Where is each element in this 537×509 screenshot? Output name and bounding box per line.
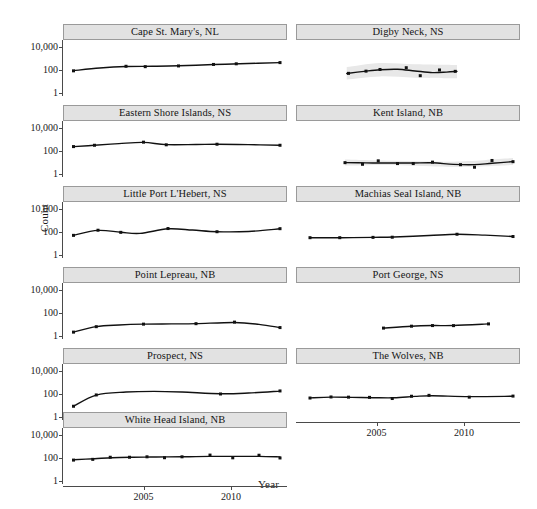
data-point bbox=[279, 389, 282, 392]
panel-strip-prospect-ns: Prospect, NS bbox=[63, 348, 287, 364]
panel-title-machias-seal-island-nb: Machias Seal Island, NB bbox=[355, 189, 462, 200]
data-point bbox=[368, 396, 371, 399]
data-point bbox=[456, 233, 459, 236]
data-point bbox=[377, 159, 380, 162]
data-point bbox=[309, 397, 312, 400]
trend-line-white-head-island-nb bbox=[74, 456, 281, 459]
x-axis-line bbox=[296, 422, 520, 423]
data-point bbox=[410, 325, 413, 328]
data-point bbox=[344, 161, 347, 164]
data-point bbox=[195, 322, 198, 325]
y-tick-label: 10,000 bbox=[31, 123, 59, 133]
panel-title-digby-neck-ns: Digby Neck, NS bbox=[372, 27, 443, 38]
data-point bbox=[279, 326, 282, 329]
y-tick-mark bbox=[59, 313, 63, 314]
plot-area-kent-island-nb bbox=[296, 121, 520, 177]
x-tick-label: 2005 bbox=[367, 428, 387, 438]
data-point bbox=[72, 234, 75, 237]
x-axis-line bbox=[63, 486, 287, 487]
data-point bbox=[258, 454, 261, 457]
y-tick-mark bbox=[59, 47, 63, 48]
data-point bbox=[512, 395, 515, 398]
y-tick-mark bbox=[59, 394, 63, 395]
y-axis-line bbox=[62, 121, 63, 177]
data-point bbox=[167, 227, 170, 230]
data-point bbox=[216, 230, 219, 233]
data-point bbox=[468, 396, 471, 399]
y-tick-label: 1 bbox=[53, 412, 58, 422]
y-axis-title: Count bbox=[38, 178, 54, 258]
data-point bbox=[165, 143, 168, 146]
plot-area-port-george-ns bbox=[296, 283, 520, 339]
plot-area-machias-seal-island-nb bbox=[296, 202, 520, 258]
data-point bbox=[338, 236, 341, 239]
panel-title-eastern-shore-islands-ns: Eastern Shore Islands, NS bbox=[119, 108, 231, 119]
x-tick-mark bbox=[231, 486, 232, 490]
data-point bbox=[487, 322, 490, 325]
panel-strip-cape-st-marys-nl: Cape St. Mary's, NL bbox=[63, 24, 287, 40]
y-tick-label: 100 bbox=[43, 308, 58, 318]
y-axis-line bbox=[62, 40, 63, 96]
y-tick-mark bbox=[59, 93, 63, 94]
data-point bbox=[177, 64, 180, 67]
y-tick-mark bbox=[59, 174, 63, 175]
y-tick-label: 100 bbox=[43, 146, 58, 156]
panel-title-port-george-ns: Port George, NS bbox=[372, 270, 443, 281]
panel-kent-island-nb: Kent Island, NB bbox=[296, 105, 520, 177]
data-point bbox=[512, 160, 515, 163]
data-point bbox=[72, 459, 75, 462]
data-point bbox=[146, 455, 149, 458]
data-point bbox=[372, 236, 375, 239]
data-point bbox=[412, 162, 415, 165]
data-point bbox=[438, 68, 441, 71]
data-point bbox=[428, 394, 431, 397]
data-point bbox=[72, 145, 75, 148]
panel-white-head-island-nb: White Head Island, NB110010,000 bbox=[63, 412, 287, 484]
panel-little-port-lhebert-ns: Little Port L'Hebert, NS110010,000 bbox=[63, 186, 287, 258]
y-tick-label: 1 bbox=[53, 476, 58, 486]
trend-line-cape-st-marys-nl bbox=[74, 63, 281, 71]
panel-strip-digby-neck-ns: Digby Neck, NS bbox=[296, 24, 520, 40]
panel-title-kent-island-nb: Kent Island, NB bbox=[373, 108, 443, 119]
data-point bbox=[279, 227, 282, 230]
data-point bbox=[491, 159, 494, 162]
y-tick-label: 10,000 bbox=[31, 42, 59, 52]
y-tick-mark bbox=[59, 70, 63, 71]
y-tick-mark bbox=[59, 151, 63, 152]
data-point bbox=[72, 331, 75, 334]
data-point bbox=[216, 143, 219, 146]
data-point bbox=[279, 61, 282, 64]
panel-point-lepreau-nb: Point Lepreau, NB110010,000 bbox=[63, 267, 287, 339]
y-tick-label: 10,000 bbox=[31, 430, 59, 440]
data-point bbox=[93, 144, 96, 147]
data-point bbox=[163, 456, 166, 459]
data-point bbox=[212, 63, 215, 66]
panel-title-the-wolves-nb: The Wolves, NB bbox=[372, 351, 443, 362]
panel-title-prospect-ns: Prospect, NS bbox=[147, 351, 203, 362]
data-point bbox=[405, 66, 408, 69]
plot-area-little-port-lhebert-ns: 110010,000 bbox=[63, 202, 287, 258]
data-point bbox=[330, 395, 333, 398]
plot-area-the-wolves-nb bbox=[296, 364, 520, 420]
y-tick-label: 100 bbox=[43, 65, 58, 75]
data-point bbox=[410, 395, 413, 398]
data-point bbox=[72, 405, 75, 408]
y-tick-label: 10,000 bbox=[31, 366, 59, 376]
y-tick-label: 1 bbox=[53, 88, 58, 98]
y-tick-mark bbox=[59, 371, 63, 372]
data-point bbox=[231, 456, 234, 459]
data-point bbox=[91, 458, 94, 461]
data-point bbox=[419, 74, 422, 77]
panel-title-white-head-island-nb: White Head Island, NB bbox=[125, 415, 226, 426]
y-axis-line bbox=[62, 202, 63, 258]
data-point bbox=[144, 65, 147, 68]
y-tick-mark bbox=[59, 232, 63, 233]
panel-eastern-shore-islands-ns: Eastern Shore Islands, NS110010,000 bbox=[63, 105, 287, 177]
x-tick-label: 2005 bbox=[134, 492, 154, 502]
plot-area-eastern-shore-islands-ns: 110010,000 bbox=[63, 121, 287, 177]
panel-strip-port-george-ns: Port George, NS bbox=[296, 267, 520, 283]
trend-line-eastern-shore-islands-ns bbox=[74, 142, 281, 146]
y-tick-mark bbox=[59, 435, 63, 436]
plot-area-point-lepreau-nb: 110010,000 bbox=[63, 283, 287, 339]
data-point bbox=[365, 70, 368, 73]
